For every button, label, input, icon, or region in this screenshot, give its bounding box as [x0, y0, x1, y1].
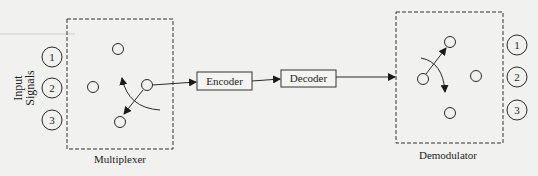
mux-contact-3	[115, 117, 126, 128]
mux-rotation-arrow	[122, 78, 160, 110]
demodulator-label: Demodulator	[419, 149, 477, 161]
input-signal-1: 1	[42, 47, 62, 67]
demod-contact-1	[445, 37, 456, 48]
multiplexer-label: Multiplexer	[94, 153, 146, 165]
svg-text:1: 1	[514, 39, 520, 51]
output-signal-1: 1	[507, 35, 527, 55]
mux-to-encoder-line	[153, 82, 197, 85]
output-signal-2: 2	[507, 67, 527, 87]
demodulator-box	[396, 12, 503, 143]
demod-rotation-arrow	[421, 58, 445, 92]
svg-text:Decoder: Decoder	[290, 72, 328, 84]
demod-switch-pivot	[418, 74, 429, 85]
demod-contact-3	[445, 108, 456, 119]
svg-text:Encoder: Encoder	[206, 75, 243, 87]
svg-text:1: 1	[49, 51, 55, 63]
output-signal-3: 3	[507, 100, 527, 120]
input-signal-2: 2	[42, 78, 62, 98]
mux-contact-1	[113, 44, 124, 55]
svg-text:2: 2	[49, 82, 55, 94]
multiplexing-diagram: Input Signals 1 2 3 Multiplexer Encoder …	[0, 0, 538, 176]
encoder-to-decoder-line	[252, 79, 280, 81]
svg-text:2: 2	[514, 71, 520, 83]
multiplexer-box	[67, 19, 173, 149]
svg-text:3: 3	[514, 104, 520, 116]
decoder-block: Decoder	[281, 70, 336, 87]
mux-switch-pivot	[142, 80, 153, 91]
svg-text:3: 3	[49, 114, 55, 126]
svg-text:Signals: Signals	[23, 70, 37, 106]
input-signal-3: 3	[42, 110, 62, 130]
input-signals-label: Input Signals	[11, 70, 37, 106]
encoder-block: Encoder	[197, 72, 252, 90]
demod-contact-2	[471, 71, 482, 82]
mux-switch-arm	[124, 90, 143, 114]
mux-contact-2	[88, 82, 99, 93]
